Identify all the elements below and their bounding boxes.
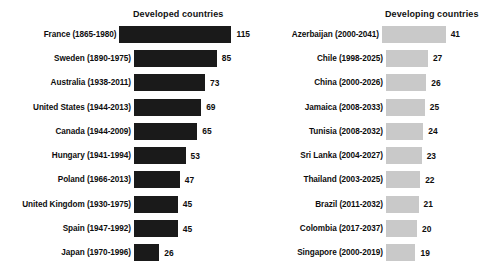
bar-value: 26 xyxy=(431,78,440,88)
table-row: France (1865-1980) 115 xyxy=(0,22,250,46)
row-label: Azerbaijan (2000-2041) xyxy=(250,30,382,39)
row-label: Hungary (1941-1994) xyxy=(0,151,134,160)
bar-zone: 53 xyxy=(134,147,250,164)
row-label: Jamaica (2008-2033) xyxy=(250,103,386,112)
row-label: United States (1944-2013) xyxy=(0,103,134,112)
bar xyxy=(134,50,217,67)
bar xyxy=(134,99,201,116)
row-label: France (1865-1980) xyxy=(0,30,119,39)
row-label: Sweden (1890-1975) xyxy=(0,54,134,63)
panel-developing-countries: Developing countries Azerbaijan (2000-20… xyxy=(250,0,460,279)
bar xyxy=(386,74,426,91)
row-label: Thailand (2003-2025) xyxy=(250,175,386,184)
bar-value: 73 xyxy=(210,78,219,88)
table-row: Tunisia (2008-2032) 24 xyxy=(250,119,460,143)
row-label: Tunisia (2008-2032) xyxy=(250,127,386,136)
table-row: Singapore (2000-2019) 19 xyxy=(250,241,460,265)
bar xyxy=(386,196,419,213)
panel-title-developing: Developing countries xyxy=(385,9,479,19)
bar-value: 27 xyxy=(433,53,442,63)
bar-zone: 22 xyxy=(386,171,460,188)
bar-value: 85 xyxy=(222,53,231,63)
table-row: Jamaica (2008-2033) 25 xyxy=(250,95,460,119)
bar-zone: 27 xyxy=(386,50,460,67)
row-label: Singapore (2000-2019) xyxy=(250,248,386,257)
bar-value: 25 xyxy=(430,102,439,112)
bar xyxy=(134,123,197,140)
bar xyxy=(134,220,178,237)
bar xyxy=(386,244,415,261)
table-row: Brazil (2011-2032) 21 xyxy=(250,192,460,216)
table-row: United Kingdom (1930-1975) 45 xyxy=(0,192,250,216)
bar-zone: 45 xyxy=(134,196,250,213)
bar-zone: 20 xyxy=(386,220,460,237)
bar xyxy=(134,196,178,213)
bar-zone: 21 xyxy=(386,196,460,213)
bar-zone: 19 xyxy=(386,244,460,261)
row-label: United Kingdom (1930-1975) xyxy=(0,200,134,209)
bar xyxy=(134,147,186,164)
bar-value: 115 xyxy=(236,29,250,39)
table-row: Spain (1947-1992) 45 xyxy=(0,216,250,240)
bar-value: 20 xyxy=(422,224,431,234)
panel-developed-countries: Developed countries France (1865-1980) 1… xyxy=(0,0,250,279)
row-label: Sri Lanka (2004-2027) xyxy=(250,151,386,160)
row-label: Poland (1966-2013) xyxy=(0,175,134,184)
row-label: Chile (1998-2025) xyxy=(250,54,386,63)
table-row: Azerbaijan (2000-2041) 41 xyxy=(250,22,460,46)
table-row: Canada (1944-2009) 65 xyxy=(0,119,250,143)
row-label: China (2000-2026) xyxy=(250,78,386,87)
bar-zone: 24 xyxy=(386,123,460,140)
table-row: Japan (1970-1996) 26 xyxy=(0,241,250,265)
table-row: United States (1944-2013) 69 xyxy=(0,95,250,119)
bar-value: 22 xyxy=(425,175,434,185)
row-label: Brazil (2011-2032) xyxy=(250,200,386,209)
bar xyxy=(386,123,423,140)
bar-zone: 47 xyxy=(134,171,250,188)
table-row: Sweden (1890-1975) 85 xyxy=(0,46,250,70)
bar-zone: 69 xyxy=(134,99,250,116)
bar xyxy=(119,26,231,43)
table-row: Poland (1966-2013) 47 xyxy=(0,168,250,192)
bar-zone: 65 xyxy=(134,123,250,140)
bar-zone: 23 xyxy=(386,147,460,164)
bar-zone: 26 xyxy=(134,244,250,261)
bar xyxy=(134,171,180,188)
table-row: China (2000-2026) 26 xyxy=(250,71,460,95)
bar-value: 45 xyxy=(183,224,192,234)
bar-value: 23 xyxy=(427,151,436,161)
bar-value: 53 xyxy=(191,151,200,161)
bar xyxy=(386,171,420,188)
row-label: Spain (1947-1992) xyxy=(0,224,134,233)
table-row: Colombia (2017-2037) 20 xyxy=(250,216,460,240)
row-label: Canada (1944-2009) xyxy=(0,127,134,136)
bar-rows-developed: France (1865-1980) 115 Sweden (1890-1975… xyxy=(0,22,250,265)
table-row: Australia (1938-2011) 73 xyxy=(0,71,250,95)
bar xyxy=(382,26,446,43)
table-row: Sri Lanka (2004-2027) 23 xyxy=(250,143,460,167)
panel-title-developed: Developed countries xyxy=(133,9,223,19)
bar-rows-developing: Azerbaijan (2000-2041) 41 Chile (1998-20… xyxy=(250,22,460,265)
bar xyxy=(134,74,205,91)
bar-zone: 115 xyxy=(119,26,250,43)
table-row: Hungary (1941-1994) 53 xyxy=(0,143,250,167)
bar xyxy=(134,244,159,261)
bar-zone: 26 xyxy=(386,74,460,91)
bar-value: 24 xyxy=(428,126,437,136)
bar-value: 19 xyxy=(420,248,429,258)
bar-value: 45 xyxy=(183,199,192,209)
bar-value: 21 xyxy=(424,199,433,209)
bar-zone: 73 xyxy=(134,74,250,91)
table-row: Thailand (2003-2025) 22 xyxy=(250,168,460,192)
row-label: Australia (1938-2011) xyxy=(0,78,134,87)
bar xyxy=(386,50,428,67)
bar xyxy=(386,147,422,164)
bar-value: 47 xyxy=(185,175,194,185)
bar-value: 26 xyxy=(164,248,173,258)
bar xyxy=(386,220,417,237)
row-label: Colombia (2017-2037) xyxy=(250,224,386,233)
bar-value: 41 xyxy=(451,29,460,39)
bar-zone: 25 xyxy=(386,99,460,116)
bar-value: 65 xyxy=(202,126,211,136)
